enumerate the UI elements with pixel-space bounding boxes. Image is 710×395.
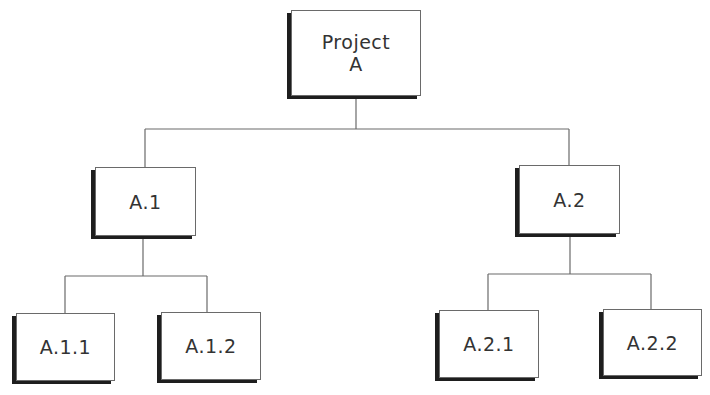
- node-a2-1[interactable]: A.2.1: [439, 310, 539, 378]
- node-label: A.2.1: [463, 333, 514, 355]
- node-label: A.2.2: [627, 332, 678, 354]
- node-a1-1[interactable]: A.1.1: [16, 313, 115, 381]
- node-a1-2[interactable]: A.1.2: [161, 312, 261, 380]
- node-a2-2[interactable]: A.2.2: [603, 309, 702, 376]
- node-label: A.2: [553, 189, 585, 211]
- org-chart-diagram: Project A A.1 A.2 A.1.1 A.1.2 A.2.1 A.2.…: [0, 0, 710, 395]
- node-project-a[interactable]: Project A: [291, 10, 421, 96]
- node-label: Project A: [322, 31, 391, 75]
- node-label: A.1.2: [185, 335, 236, 357]
- node-label: A.1.1: [40, 336, 91, 358]
- node-label: A.1: [129, 191, 161, 213]
- node-a1[interactable]: A.1: [95, 167, 196, 236]
- node-a2[interactable]: A.2: [519, 165, 620, 234]
